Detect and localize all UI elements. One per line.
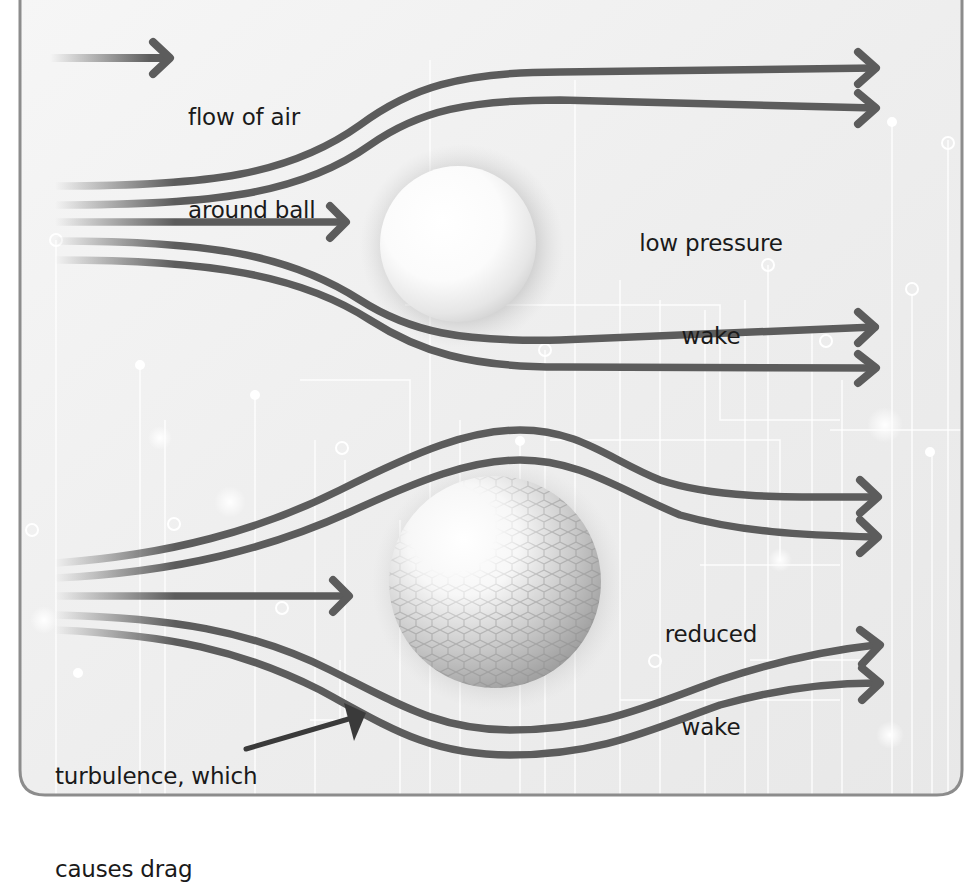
low-pressure-wake-line1: low pressure — [616, 228, 806, 259]
legend-label: flow of air around ball — [188, 40, 315, 288]
golf-ball — [372, 459, 624, 711]
turbulence-label-line2: causes drag — [55, 854, 257, 885]
turbulence-label-line1: turbulence, which — [55, 761, 257, 792]
turbulence-label: turbulence, which causes drag — [55, 699, 257, 886]
reduced-wake-label: reduced wake — [646, 557, 776, 805]
legend-label-line2: around ball — [188, 195, 315, 226]
reduced-wake-line2: wake — [646, 712, 776, 743]
reduced-wake-line1: reduced — [646, 619, 776, 650]
low-pressure-wake-line2: wake — [616, 321, 806, 352]
low-pressure-wake-label: low pressure wake — [616, 166, 806, 414]
legend-label-line1: flow of air — [188, 102, 315, 133]
